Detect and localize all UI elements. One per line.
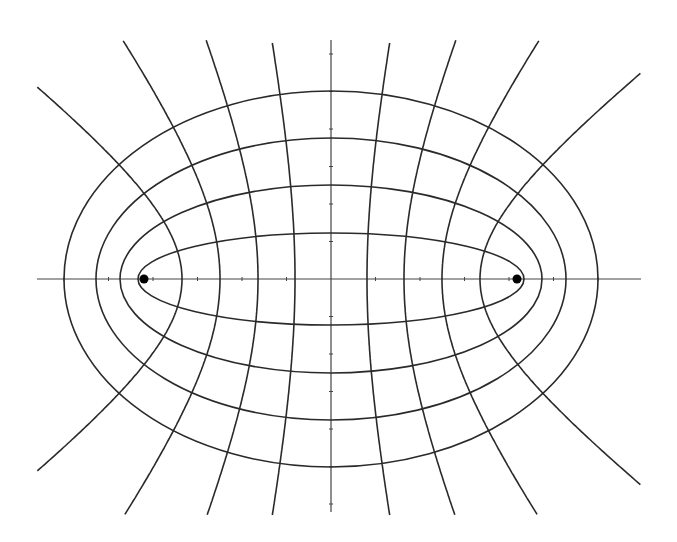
elliptic-coordinates-diagram [0,0,677,542]
coordinate-axes [37,40,641,512]
hyperbola-2-left [206,40,258,514]
right-focus-point [513,275,522,284]
hyperbola-2-right [404,40,456,514]
left-focus-point [140,275,149,284]
diagram-svg [0,0,677,542]
confocal-hyperbolas [37,40,640,515]
